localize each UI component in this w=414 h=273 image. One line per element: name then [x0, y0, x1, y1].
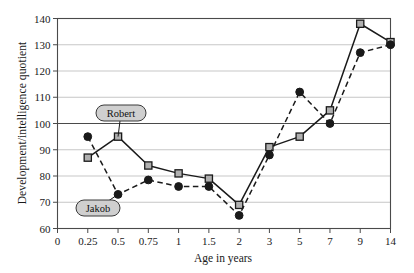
x-tick-label-9: 9	[357, 235, 363, 247]
development-quotient-line-chart: 00.250.50.7511.52357914 6070809010011012…	[0, 0, 414, 273]
marker-jakob-1.5	[205, 183, 213, 191]
marker-jakob-3	[266, 151, 274, 159]
marker-robert-2	[236, 201, 243, 208]
marker-robert-9	[357, 20, 364, 27]
x-tick-label-2: 2	[236, 235, 242, 247]
marker-jakob-5	[296, 88, 304, 96]
x-tick-label-1: 1	[176, 235, 182, 247]
x-tick-label-0.25: 0.25	[78, 235, 98, 247]
x-tick-label-0: 0	[55, 235, 61, 247]
callout-label-jakob: Jakob	[86, 203, 111, 214]
y-tick-label-130: 130	[34, 39, 51, 51]
marker-jakob-14	[387, 41, 395, 49]
y-tick-label-80: 80	[40, 170, 52, 182]
y-tick-label-70: 70	[40, 196, 52, 208]
x-axis-title: Age in years	[194, 252, 253, 265]
y-tick-label-60: 60	[40, 223, 52, 235]
marker-jakob-7	[326, 120, 334, 128]
y-tick-label-140: 140	[34, 13, 51, 25]
y-tick-label-110: 110	[34, 91, 51, 103]
x-tick-label-14: 14	[385, 235, 397, 247]
marker-jakob-9	[356, 49, 364, 57]
marker-jakob-2	[235, 211, 243, 219]
y-axis-title: Development/intelligence quotient	[16, 41, 29, 204]
callout-label-robert: Robert	[107, 108, 136, 119]
marker-robert-1.5	[205, 175, 212, 182]
marker-robert-7	[326, 107, 333, 114]
x-tick-label-5: 5	[297, 235, 303, 247]
chart-container: 00.250.50.7511.52357914 6070809010011012…	[0, 0, 414, 273]
x-tick-label-1.5: 1.5	[202, 235, 216, 247]
marker-robert-0.75	[145, 162, 152, 169]
x-tick-label-3: 3	[267, 235, 273, 247]
y-tick-label-120: 120	[34, 65, 51, 77]
marker-jakob-1	[175, 183, 183, 191]
y-tick-label-90: 90	[40, 144, 52, 156]
marker-robert-0.25	[84, 154, 91, 161]
marker-robert-1	[175, 170, 182, 177]
x-tick-label-0.5: 0.5	[111, 235, 125, 247]
x-tick-label-0.75: 0.75	[139, 235, 159, 247]
marker-jakob-0.75	[144, 176, 152, 184]
y-tick-label-100: 100	[34, 118, 51, 130]
marker-jakob-0.5	[114, 190, 122, 198]
x-tick-label-7: 7	[327, 235, 333, 247]
marker-jakob-0.25	[84, 133, 92, 141]
marker-robert-5	[296, 133, 303, 140]
chart-background	[0, 0, 414, 273]
